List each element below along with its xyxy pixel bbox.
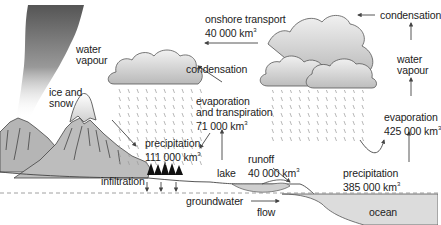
lake-text: lake	[217, 167, 236, 179]
lake	[232, 180, 290, 192]
precipitation-ocean-value: 385 000 km	[343, 181, 397, 193]
label-ocean: ocean	[369, 207, 397, 218]
runoff-text: runoff	[248, 153, 274, 165]
label-condensation-left: condensation	[186, 64, 247, 75]
evaporation-ocean-text: evaporation	[384, 111, 438, 123]
ice-and-snow-line2: snow	[49, 97, 73, 109]
water-vapour-right-line2: vapour	[397, 64, 429, 76]
evap-transp-value: 71 000 km	[196, 120, 244, 132]
label-water-vapour-left: water vapour	[76, 44, 108, 66]
onshore-transport-value: 40 000 km	[205, 27, 253, 39]
water-vapour-left-line2: vapour	[76, 54, 108, 66]
runoff-unit-sup: 3	[296, 167, 299, 173]
groundwater-text: groundwater	[186, 195, 243, 207]
infiltration-text: infiltration	[101, 175, 145, 187]
label-flow: flow	[257, 207, 275, 218]
evaporation-ocean-value: 425 000 km	[384, 125, 438, 137]
label-evaporation-transpiration: evaporation and transpiration 71 000 km3	[196, 96, 273, 132]
precipitation-ocean-text: precipitation	[343, 167, 398, 179]
onshore-transport-unit-sup: 3	[253, 27, 256, 33]
ocean	[282, 194, 438, 225]
precipitation-land-unit-sup: 3	[197, 151, 200, 157]
condensation-left-text: condensation	[186, 63, 247, 75]
evap-transp-line2: and transpiration	[196, 106, 273, 118]
label-precipitation-land: precipitation 111 000 km3	[145, 138, 201, 163]
flow-text: flow	[257, 206, 275, 218]
condensation-right-text: condensation	[380, 9, 441, 21]
label-runoff: runoff 40 000 km3	[248, 154, 299, 179]
label-precipitation-ocean: precipitation 385 000 km3	[343, 168, 400, 193]
ocean-text: ocean	[369, 206, 397, 218]
runoff-value: 40 000 km	[248, 167, 296, 179]
label-ice-and-snow: ice and snow	[49, 87, 82, 109]
label-infiltration: infiltration	[101, 176, 145, 187]
precipitation-ocean-unit-sup: 3	[397, 181, 400, 187]
label-water-vapour-right: water vapour	[397, 54, 429, 76]
label-onshore-transport: onshore transport 40 000 km3	[205, 14, 286, 39]
label-evaporation-ocean: evaporation 425 000 km3	[384, 112, 441, 137]
label-groundwater: groundwater	[186, 196, 243, 207]
rain-right	[270, 90, 370, 142]
onshore-transport-text: onshore transport	[205, 13, 286, 25]
precipitation-land-text: precipitation	[145, 137, 200, 149]
evap-transp-unit-sup: 3	[244, 120, 247, 126]
label-lake: lake	[217, 168, 236, 179]
label-condensation-right: condensation	[380, 10, 441, 21]
precipitation-land-value: 111 000 km	[145, 151, 197, 163]
